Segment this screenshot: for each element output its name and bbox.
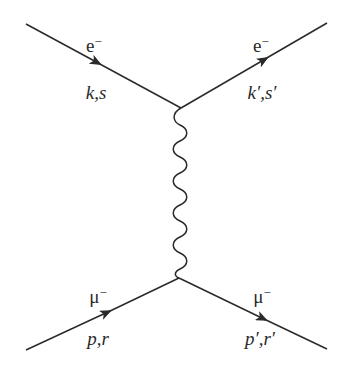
outgoing-electron-momentum: k′,s′ [248,83,277,102]
outgoing-muon-label: μ− [253,286,271,306]
incoming-electron-momentum: k,s [86,83,107,102]
diagram-canvas [0,0,356,373]
incoming-electron-label: e− [86,35,102,55]
outgoing-muon-momentum: p′,r′ [245,329,275,348]
photon-propagator [173,108,187,278]
feynman-diagram: e− k,s e− k′,s′ μ− p,r μ− p′,r′ [0,0,356,373]
incoming-muon-label: μ− [89,286,107,306]
outgoing-electron-label: e− [253,35,269,55]
incoming-muon-momentum: p,r [87,329,109,348]
